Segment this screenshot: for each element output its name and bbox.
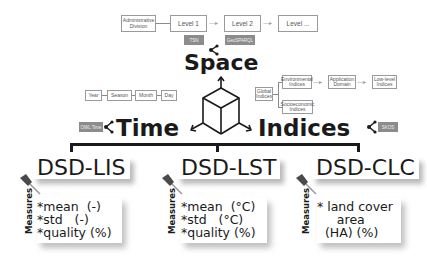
measures-label: Measures (301, 188, 311, 234)
arrow-right-icon: —▸ (263, 20, 272, 26)
indices-application-domain: Application Domain (328, 75, 356, 89)
bracket-bar (70, 143, 360, 146)
arrow-right-icon: —▸ (209, 20, 218, 26)
dsd-lst-measures: *mean (°C) *std (°C) *quality (%) (181, 198, 267, 243)
dsd-clc-title: DSD-CLC (312, 157, 419, 179)
time-title: Time (116, 117, 179, 140)
cube-axes-icon (185, 76, 257, 138)
time-level-month: Month (135, 90, 157, 101)
dsd-lis-title: DSD-LIS (33, 157, 130, 179)
dsd-clc-measures: * land cover area (HA) (%) (317, 198, 401, 243)
connector (278, 82, 279, 107)
indices-title: Indices (258, 117, 350, 140)
measures-label: Measures (24, 188, 34, 234)
tag-skos: SKOS (378, 122, 398, 132)
space-level-admin-division: Administrative Division (121, 15, 156, 32)
space-level-n: Level ... (278, 15, 318, 32)
space-level-2: Level 2 (224, 15, 261, 32)
measures-label: Measures (167, 188, 177, 234)
time-level-day: Day (161, 90, 177, 101)
time-level-season: Season (107, 90, 132, 101)
share-icon (103, 120, 115, 134)
dsd-lst-title: DSD-LST (177, 157, 280, 179)
tag-geosparql: GeoSPARQL (225, 35, 255, 45)
bracket-tick (70, 143, 73, 152)
indices-low-level: Low-level Indices (372, 75, 397, 89)
arrow-right-icon: —▸ (313, 79, 322, 85)
time-level-year: Year (85, 90, 102, 101)
tag-owl-time: OWL Time (79, 122, 103, 132)
indices-global: Global Indices (255, 87, 273, 101)
indices-socioeconomic: Socioeconomic Indices (282, 100, 313, 114)
arrow-right-icon: —▸ (357, 79, 366, 85)
bracket-tick (216, 143, 219, 152)
share-icon (366, 120, 378, 134)
bracket-tick (357, 143, 360, 152)
space-level-1: Level 1 (170, 15, 207, 32)
space-title: Space (184, 52, 258, 74)
indices-environmental: Environmental Indices (282, 75, 312, 89)
tag-tsn: TSN (184, 35, 204, 45)
dsd-lis-measures: *mean (-) *std (-) *quality (%) (37, 198, 122, 243)
connector (156, 23, 170, 24)
